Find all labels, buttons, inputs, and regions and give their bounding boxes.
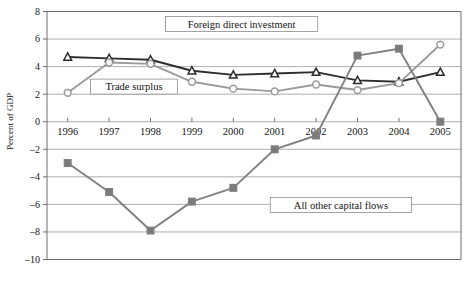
x-tick-label: 2004 <box>388 126 410 137</box>
annotation-label: All other capital flows <box>294 200 388 211</box>
y-tick-label: 8 <box>35 6 40 17</box>
data-point-marker <box>313 132 320 139</box>
line-chart: 86420–2–4–6–8–10 19961997199819992000200… <box>0 0 470 286</box>
x-tick-label: 2000 <box>223 126 244 137</box>
y-axis-ticks: 86420–2–4–6–8–10 <box>24 6 47 265</box>
data-point-marker <box>230 85 237 92</box>
data-point-marker <box>313 81 320 88</box>
y-tick-label: 6 <box>35 33 40 44</box>
x-tick-label: 1997 <box>99 126 120 137</box>
annotation-label: Trade surplus <box>105 81 162 92</box>
data-point-marker <box>229 71 237 78</box>
data-point-marker <box>147 227 154 234</box>
y-tick-label: –6 <box>29 199 40 210</box>
x-tick-label: 2001 <box>264 126 285 137</box>
data-point-marker <box>64 160 71 167</box>
data-point-marker <box>147 60 154 67</box>
x-tick-label: 1998 <box>140 126 161 137</box>
y-tick-label: –2 <box>29 144 40 155</box>
annotation-all-other-capital-flows: All other capital flows <box>270 198 411 213</box>
data-point-marker <box>64 53 72 60</box>
data-point-marker <box>396 80 403 87</box>
x-axis-ticks: 1996199719981999200020012002200320042005 <box>57 118 451 137</box>
data-point-marker <box>354 52 361 59</box>
y-tick-label: 4 <box>35 61 40 72</box>
data-point-marker <box>189 78 196 85</box>
data-point-marker <box>437 118 444 125</box>
data-point-marker <box>396 45 403 52</box>
y-tick-label: –4 <box>29 171 40 182</box>
annotation-trade-surplus: Trade surplus <box>91 79 178 94</box>
data-point-marker <box>271 88 278 95</box>
data-point-marker <box>312 68 320 75</box>
data-point-marker <box>106 189 113 196</box>
y-tick-label: –10 <box>24 254 40 265</box>
x-tick-label: 2003 <box>347 126 368 137</box>
annotation-foreign-direct-investment: Foreign direct investment <box>165 16 317 31</box>
data-point-marker <box>437 41 444 48</box>
x-tick-label: 1999 <box>181 126 202 137</box>
data-point-marker <box>354 76 362 83</box>
y-tick-label: 0 <box>35 116 40 127</box>
data-point-marker <box>436 68 444 75</box>
annotation-label: Foreign direct investment <box>188 19 296 30</box>
y-axis-title: Percent of GDP <box>5 93 15 150</box>
y-tick-label: 2 <box>35 89 40 100</box>
data-point-marker <box>64 89 71 96</box>
data-point-marker <box>189 198 196 205</box>
x-tick-label: 2005 <box>430 126 451 137</box>
data-point-marker <box>188 67 196 74</box>
data-point-marker <box>354 87 361 94</box>
y-tick-label: –8 <box>29 226 40 237</box>
annotation-labels: Foreign direct investmentTrade surplusAl… <box>91 16 412 212</box>
data-point-marker <box>230 185 237 192</box>
x-tick-label: 1996 <box>57 126 78 137</box>
data-point-marker <box>271 146 278 153</box>
y-axis-title-text: Percent of GDP <box>5 93 15 150</box>
series-line <box>68 57 441 82</box>
data-point-marker <box>106 59 113 66</box>
data-point-marker <box>271 69 279 76</box>
chart-container: 86420–2–4–6–8–10 19961997199819992000200… <box>0 0 470 286</box>
